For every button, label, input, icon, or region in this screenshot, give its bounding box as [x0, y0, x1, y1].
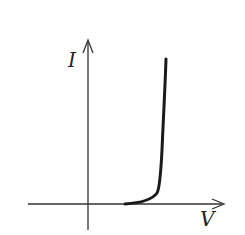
iv-characteristic-diagram: I V [0, 0, 245, 235]
iv-curve [125, 59, 166, 204]
y-axis [83, 40, 93, 230]
x-axis-label: V [200, 207, 217, 231]
y-axis-label: I [67, 48, 77, 72]
